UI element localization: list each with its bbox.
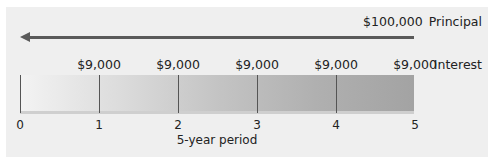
tick-label-0: 0 [16,118,24,132]
interest-payment-2: $9,000 [156,57,200,72]
tick-label-3: 3 [253,118,261,132]
tick-mark-0 [20,75,21,113]
interest-payment-1: $9,000 [77,57,121,72]
interest-payment-3: $9,000 [235,57,279,72]
principal-label: $100,000Principal [363,14,482,29]
tick-mark-4 [336,75,337,113]
tick-label-2: 2 [174,118,182,132]
timeline-bar [20,75,414,113]
timeline-title: 5-year period [177,133,258,147]
tick-mark-2 [178,75,179,113]
interest-payment-5: $9,000 [393,57,437,72]
tick-mark-3 [257,75,258,113]
interest-label: Interest [434,57,482,72]
tick-label-1: 1 [95,118,103,132]
timeline-baseline [20,111,414,114]
principal-arrow-line [24,36,414,39]
arrow-left-icon [20,32,30,42]
interest-payment-4: $9,000 [314,57,358,72]
tick-mark-1 [99,75,100,113]
principal-text: Principal [429,14,482,29]
principal-amount: $100,000 [363,14,423,29]
tick-label-5: 5 [411,118,419,132]
tick-label-4: 4 [332,118,340,132]
